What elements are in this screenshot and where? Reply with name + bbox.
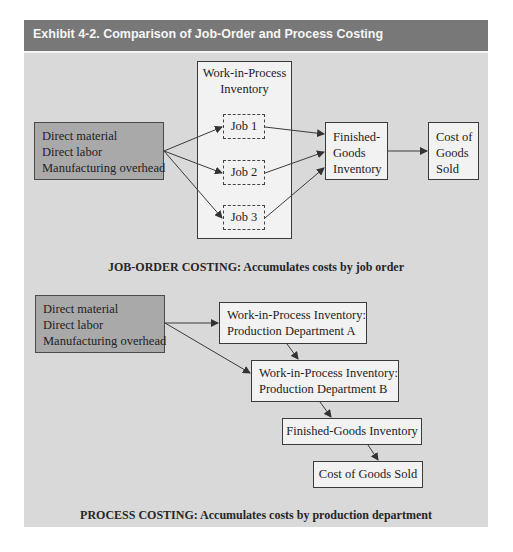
input-manufacturing-overhead: Manufacturing overhead bbox=[42, 160, 163, 176]
process-input-direct-material: Direct material bbox=[43, 301, 164, 317]
finished-goods-line1: Finished- bbox=[333, 129, 387, 145]
job-order-caption: JOB-ORDER COSTING: Accumulates costs by … bbox=[24, 260, 488, 275]
cogs-box: Cost of Goods Sold bbox=[428, 122, 479, 180]
job-3-box: Job 3 bbox=[223, 205, 265, 230]
dept-b-line2: Production Department B bbox=[259, 381, 398, 397]
job-order-inputs-box: Direct material Direct labor Manufacturi… bbox=[34, 122, 164, 180]
wip-title-line1: Work-in-Process bbox=[198, 65, 291, 81]
input-direct-labor: Direct labor bbox=[42, 144, 163, 160]
process-input-manufacturing-overhead: Manufacturing overhead bbox=[43, 333, 164, 349]
finished-goods-line3: Inventory bbox=[333, 161, 387, 177]
finished-goods-box: Finished- Goods Inventory bbox=[325, 122, 388, 180]
cogs-line1: Cost of bbox=[436, 129, 478, 145]
wip-dept-b-box: Work-in-Process Inventory: Production De… bbox=[251, 360, 399, 402]
exhibit-title: Exhibit 4-2. Comparison of Job-Order and… bbox=[33, 27, 383, 41]
dept-a-line2: Production Department A bbox=[227, 323, 366, 339]
cogs-line3: Sold bbox=[436, 161, 478, 177]
job-2-box: Job 2 bbox=[223, 160, 265, 185]
process-cogs-box: Cost of Goods Sold bbox=[313, 461, 423, 488]
finished-goods-line2: Goods bbox=[333, 145, 387, 161]
cogs-line2: Goods bbox=[436, 145, 478, 161]
process-input-direct-labor: Direct labor bbox=[43, 317, 164, 333]
input-direct-material: Direct material bbox=[42, 128, 163, 144]
job-1-box: Job 1 bbox=[223, 114, 265, 139]
dept-a-line1: Work-in-Process Inventory: bbox=[227, 307, 366, 323]
process-inputs-box: Direct material Direct labor Manufacturi… bbox=[35, 295, 165, 353]
process-finished-goods-box: Finished-Goods Inventory bbox=[282, 418, 422, 445]
wip-title-line2: Inventory bbox=[198, 81, 291, 97]
process-caption: PROCESS COSTING: Accumulates costs by pr… bbox=[24, 508, 488, 523]
exhibit-header: Exhibit 4-2. Comparison of Job-Order and… bbox=[24, 20, 488, 53]
dept-b-line1: Work-in-Process Inventory: bbox=[259, 365, 398, 381]
wip-dept-a-box: Work-in-Process Inventory: Production De… bbox=[219, 302, 367, 344]
